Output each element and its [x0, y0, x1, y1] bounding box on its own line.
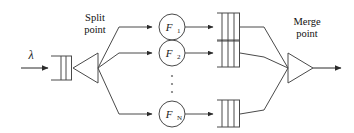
arrival-rate-label: λ	[27, 48, 33, 62]
service-node-f2-label: F	[165, 47, 173, 59]
fork-join-diagram: F 1 F 2 F N	[0, 0, 354, 133]
merge-point-label-line2: point	[296, 28, 318, 39]
service-node-f1-label: F	[165, 21, 173, 33]
merge-branch-lines	[240, 27, 288, 114]
input-queue	[51, 56, 72, 80]
branch-queue-1	[217, 13, 240, 41]
branch-queue-2	[217, 40, 240, 67]
split-point-label-line2: point	[84, 24, 106, 35]
service-node-fn-subscript: N	[177, 114, 182, 122]
merge-point-triangle	[288, 53, 313, 83]
service-node-f2: F 2	[159, 40, 185, 66]
service-node-f1-subscript: 1	[177, 27, 181, 35]
split-point-label-line1: Split	[85, 12, 105, 23]
service-node-f2-subscript: 2	[177, 53, 181, 61]
service-node-f1: F 1	[159, 14, 185, 40]
service-node-fn: F N	[159, 101, 185, 127]
node-to-queue-arrows	[185, 27, 213, 114]
split-point-triangle	[73, 53, 98, 83]
split-branch-lines	[98, 27, 152, 114]
service-node-fn-label: F	[165, 108, 173, 120]
branch-queue-n	[217, 100, 240, 127]
vertical-ellipsis	[171, 75, 173, 93]
merge-point-label-line1: Merge	[293, 16, 321, 27]
diagram-canvas: F 1 F 2 F N	[0, 0, 354, 133]
